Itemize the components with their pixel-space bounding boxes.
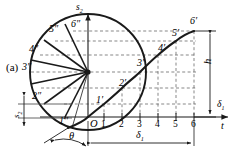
figure-container: (a) s2 δ1 t O h δ1 s2 θ 1 2 3 4 5 6 1′ 2… <box>0 0 241 154</box>
displacement-curve <box>68 31 194 128</box>
hub-center-dot <box>85 69 90 74</box>
theta-angle <box>44 128 86 146</box>
origin-label: O <box>90 119 98 130</box>
curve-point-2-prime: 2′ <box>119 78 126 88</box>
time-axis-label: t <box>221 121 224 131</box>
curve-point-4-prime: 4′ <box>158 43 165 53</box>
tick-label-4: 4 <box>155 120 160 130</box>
curve-point-1-prime: 1′ <box>96 95 103 105</box>
circle-point-2-double-prime: 2″ <box>32 91 41 101</box>
angle-span-label: δ1 <box>136 130 144 142</box>
horizontal-axis-label: δ1 <box>217 100 224 112</box>
projection-lines-horizontal <box>31 31 196 104</box>
tick-label-6: 6 <box>191 120 196 130</box>
circle-point-5-double-prime: 5″ <box>49 24 58 34</box>
curve-point-5-prime: 5′ <box>172 28 179 38</box>
curve-point-3-prime: 3′ <box>137 58 144 68</box>
circle-point-3-double-prime: 3″ <box>22 62 31 72</box>
circle-point-4-double-prime: 4″ <box>29 44 38 54</box>
circle-point-1-double-prime: 1″ <box>59 116 68 126</box>
tick-label-3: 3 <box>137 120 142 130</box>
stroke-dimension-label: s2 <box>12 112 23 118</box>
figure-caption: (a) <box>6 62 18 73</box>
tick-label-5: 5 <box>173 120 178 130</box>
vertical-axis-label: s2 <box>76 3 83 15</box>
curve-point-6-prime: 6′ <box>190 16 197 26</box>
tick-label-2: 2 <box>119 120 124 130</box>
projection-lines-vertical <box>104 31 194 115</box>
theta-angle-label: θ <box>69 131 74 142</box>
tick-label-1: 1 <box>101 120 106 130</box>
circle-point-6-double-prime: 6″ <box>71 19 80 29</box>
rise-dimension-label: h <box>203 59 214 64</box>
rise-dimension <box>194 31 216 117</box>
